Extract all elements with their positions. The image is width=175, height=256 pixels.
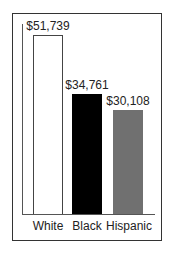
value-label-hispanic: $30,108 — [106, 94, 150, 108]
bar-hispanic — [113, 110, 143, 214]
category-label-black: Black — [70, 219, 104, 233]
bar-white — [33, 35, 63, 214]
value-label-black: $34,761 — [65, 78, 109, 92]
category-label-white: White — [28, 219, 68, 233]
category-label-hispanic: Hispanic — [104, 219, 154, 233]
y-axis-line — [22, 24, 23, 214]
value-label-white: $51,739 — [26, 19, 70, 33]
x-axis-line — [22, 214, 155, 215]
bar-black — [72, 94, 102, 214]
